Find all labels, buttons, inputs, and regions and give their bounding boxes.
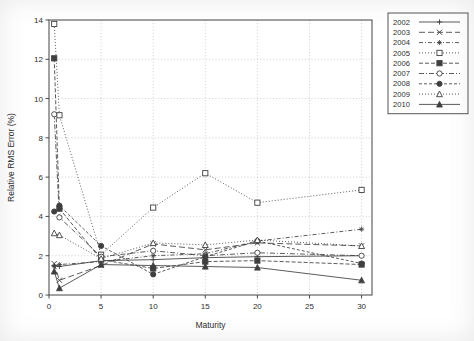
data-point-open-square: [255, 200, 260, 205]
data-point-open-square: [151, 205, 156, 210]
data-point-filled-square: [255, 258, 260, 263]
data-point-open-circle: [52, 112, 57, 117]
legend-label-2008[interactable]: 2008: [393, 79, 410, 88]
data-point-open-circle: [151, 248, 156, 253]
y-tick-label: 12: [34, 55, 43, 64]
legend-label-2009[interactable]: 2009: [393, 90, 410, 99]
y-tick-label: 14: [34, 16, 43, 25]
y-tick-label: 10: [34, 95, 43, 104]
data-point-open-square: [57, 113, 62, 118]
data-point-open-circle: [359, 253, 364, 258]
y-tick-label: 2: [39, 252, 44, 261]
plot-area: [49, 20, 372, 295]
data-point-filled-circle: [98, 243, 103, 248]
y-axis-label: Relative RMS Error (%): [6, 113, 16, 202]
y-tick-label: 8: [39, 134, 44, 143]
data-point-filled-circle: [437, 81, 442, 86]
y-tick-label: 6: [39, 173, 44, 182]
legend-label-2007[interactable]: 2007: [393, 69, 410, 78]
data-point-open-square: [52, 21, 57, 26]
y-tick-label: 0: [39, 291, 44, 300]
y-tick-label: 4: [39, 212, 44, 221]
chart-legend[interactable]: 200220032004200520062007200820092010: [388, 13, 468, 114]
data-point-open-square: [437, 50, 442, 55]
chart-figure: 051015202530 02468101214 Maturity Relati…: [0, 0, 474, 341]
x-tick-label: 30: [357, 302, 366, 311]
x-tick-label: 0: [47, 302, 52, 311]
data-point-star: [359, 227, 364, 232]
data-point-filled-circle: [203, 254, 208, 259]
legend-label-2006[interactable]: 2006: [393, 59, 410, 68]
legend-label-2005[interactable]: 2005: [393, 49, 410, 58]
x-tick-label: 15: [201, 302, 210, 311]
data-point-open-circle: [255, 250, 260, 255]
x-tick-label: 5: [99, 302, 104, 311]
x-tick-label: 20: [253, 302, 262, 311]
data-point-open-circle: [437, 71, 442, 76]
data-point-filled-square: [52, 56, 57, 61]
x-tick-label: 25: [305, 302, 314, 311]
x-axis-label: Maturity: [195, 320, 226, 330]
x-tick-label: 10: [149, 302, 158, 311]
data-point-filled-circle: [151, 272, 156, 277]
data-point-filled-circle: [57, 203, 62, 208]
data-point-filled-circle: [52, 209, 57, 214]
data-point-open-square: [359, 187, 364, 192]
data-point-filled-circle: [359, 261, 364, 266]
plot-background: [49, 20, 372, 295]
legend-label-2010[interactable]: 2010: [393, 100, 410, 109]
data-point-open-square: [203, 171, 208, 176]
legend-label-2004[interactable]: 2004: [393, 38, 410, 47]
legend-label-2003[interactable]: 2003: [393, 28, 410, 37]
data-point-filled-square: [437, 61, 442, 66]
legend-label-2002[interactable]: 2002: [393, 18, 410, 27]
data-point-open-circle: [57, 215, 62, 220]
